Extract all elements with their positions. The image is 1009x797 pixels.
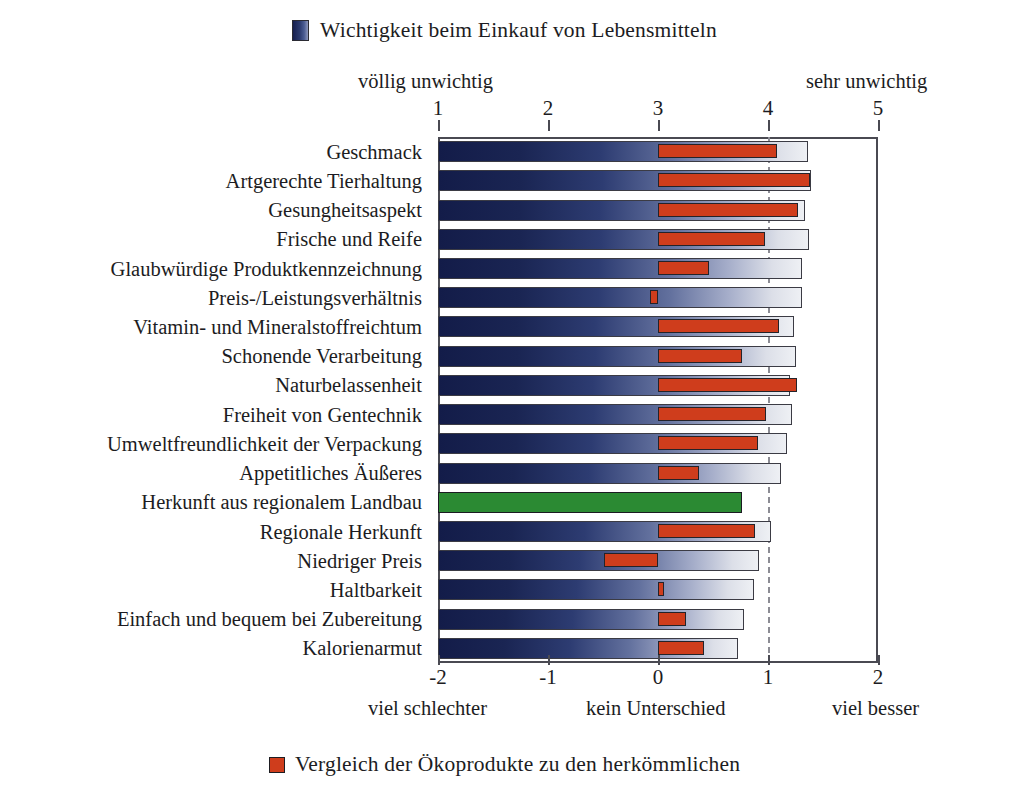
y-axis-label: Vitamin- und Mineralstoffreichtum [133, 317, 422, 338]
plot-area [438, 137, 878, 663]
y-axis-label: Artgerechte Tierhaltung [226, 171, 422, 192]
y-axis-label: Einfach und bequem bei Zubereitung [117, 609, 422, 630]
bar-rows [438, 137, 878, 663]
axis-top-tick-label: 5 [873, 96, 884, 121]
bar-row [438, 404, 878, 425]
bar-row [438, 609, 878, 630]
bar-row [438, 492, 878, 513]
axis-bottom: -2-1012 [438, 665, 878, 693]
bar-comparison [658, 641, 704, 655]
bar-row [438, 346, 878, 367]
axis-top-tick-label: 4 [763, 96, 774, 121]
bar-row [438, 258, 878, 279]
axis-top-tick-mark [768, 120, 770, 131]
chart-root: Wichtigkeit beim Einkauf von Lebensmitte… [0, 0, 1009, 797]
bar-comparison [658, 319, 779, 333]
y-axis-label: Freiheit von Gentechnik [223, 405, 422, 426]
bar-row [438, 375, 878, 396]
bar-comparison [658, 436, 758, 450]
red-square-swatch-icon [269, 757, 285, 773]
y-axis-label: Gesungheitsaspekt [268, 200, 422, 221]
axis-top-tick-label: 2 [543, 96, 554, 121]
bar-importance-highlight [438, 492, 742, 513]
axis-bottom-tick-mark [438, 655, 440, 665]
bar-comparison [650, 290, 658, 304]
axis-top-tick-mark [548, 120, 550, 131]
bar-importance [438, 346, 796, 367]
bar-comparison [658, 349, 742, 363]
bar-importance [438, 609, 744, 630]
caption-top-left: völlig unwichtig [358, 70, 493, 93]
y-axis-label: Niedriger Preis [297, 551, 422, 572]
caption-bottom-left: viel schlechter [368, 697, 487, 720]
axis-top-tick-mark [658, 120, 660, 131]
axis-bottom-tick-mark [768, 655, 770, 665]
y-axis-labels: GeschmackArtgerechte TierhaltungGesunghe… [0, 137, 430, 663]
axis-bottom-tick-label: 1 [763, 665, 774, 690]
bar-comparison [658, 144, 777, 158]
y-axis-label: Umweltfreundlichkeit der Verpackung [107, 434, 422, 455]
axis-bottom-tick-label: 2 [873, 665, 884, 690]
y-axis-label: Appetitliches Äußeres [239, 463, 422, 484]
bar-comparison [658, 173, 810, 187]
bar-comparison [604, 553, 658, 567]
y-axis-label: Haltbarkeit [330, 580, 422, 601]
blue-gradient-swatch-icon [292, 20, 309, 41]
axis-top-tick-label: 3 [653, 96, 664, 121]
bar-row [438, 550, 878, 571]
axis-bottom-tick-label: -2 [429, 665, 447, 690]
legend-bottom: Vergleich der Ökoprodukte zu den herkömm… [0, 752, 1009, 777]
bar-importance [438, 287, 802, 308]
y-axis-label: Naturbelassenheit [275, 375, 422, 396]
bar-row [438, 521, 878, 542]
bar-row [438, 170, 878, 191]
y-axis-label: Regionale Herkunft [260, 522, 422, 543]
y-axis-label: Kalorienarmut [302, 638, 422, 659]
bar-comparison [658, 261, 709, 275]
bar-row [438, 316, 878, 337]
bar-comparison [658, 232, 765, 246]
legend-top: Wichtigkeit beim Einkauf von Lebensmitte… [0, 18, 1009, 43]
bar-comparison [658, 203, 798, 217]
axis-bottom-tick-label: -1 [539, 665, 557, 690]
axis-top-tick-mark [878, 120, 880, 131]
bar-comparison [658, 612, 686, 626]
axis-bottom-tick-mark [548, 655, 550, 665]
caption-top-right: sehr unwichtig [806, 70, 927, 93]
y-axis-label: Herkunft aus regionalem Landbau [141, 492, 422, 513]
caption-bottom-right: viel besser [832, 697, 919, 720]
axis-bottom-tick-mark [658, 655, 660, 665]
bar-comparison [658, 466, 699, 480]
y-axis-label: Frische und Reife [276, 229, 422, 250]
legend-top-label: Wichtigkeit beim Einkauf von Lebensmitte… [320, 18, 717, 43]
bar-comparison [658, 524, 755, 538]
bar-importance [438, 463, 781, 484]
bar-row [438, 463, 878, 484]
y-axis-label: Preis-/Leistungsverhältnis [208, 288, 422, 309]
bar-row [438, 229, 878, 250]
caption-bottom-center: kein Unterschied [586, 697, 725, 720]
y-axis-label: Schonende Verarbeitung [221, 346, 422, 367]
axis-bottom-tick-mark [878, 655, 880, 665]
bar-importance [438, 579, 754, 600]
axis-top: 12345 [438, 96, 878, 122]
bar-importance [438, 258, 802, 279]
bar-importance [438, 550, 759, 571]
axis-top-tick-label: 1 [433, 96, 444, 121]
bar-comparison [658, 582, 664, 596]
y-axis-label: Geschmack [326, 142, 422, 163]
legend-bottom-label: Vergleich der Ökoprodukte zu den herkömm… [295, 752, 740, 777]
bar-row [438, 141, 878, 162]
y-axis-label: Glaubwürdige Produktkennzeichnung [111, 259, 422, 280]
bar-row [438, 579, 878, 600]
axis-top-tick-mark [438, 120, 440, 131]
bar-row [438, 287, 878, 308]
bar-comparison [658, 378, 797, 392]
axis-bottom-tick-label: 0 [653, 665, 664, 690]
bar-row [438, 433, 878, 454]
bar-comparison [658, 407, 766, 421]
bar-row [438, 200, 878, 221]
